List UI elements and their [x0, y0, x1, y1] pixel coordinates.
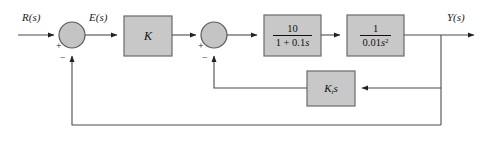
first-order-lag-block-rect: [264, 15, 321, 56]
inner-loop-summing-junction-circle: [201, 22, 227, 48]
double-integrator-block-rect: [347, 15, 404, 56]
sum2-input-sign: +: [198, 41, 204, 51]
sum1-feedback-sign: −: [60, 53, 66, 63]
outer-feedback-line: [72, 56, 441, 125]
tach-to-sum2-line: [214, 56, 307, 88]
sum2-feedback-sign: −: [202, 53, 208, 63]
diagram-vector-layer: [0, 0, 493, 141]
error-signal-label: E(s): [89, 11, 107, 23]
sum1-input-sign: +: [56, 41, 62, 51]
gain-block-k-rect: [124, 16, 172, 56]
output-signal-label: Y(s): [447, 11, 465, 23]
input-summing-junction-circle: [59, 22, 85, 48]
tachometer-feedback-block-rect: [307, 71, 355, 106]
input-signal-label: R(s): [22, 11, 40, 23]
block-diagram-canvas: R(s) E(s) Y(s) + − + − K 10 1 + 0.1s 1 0…: [0, 0, 493, 141]
